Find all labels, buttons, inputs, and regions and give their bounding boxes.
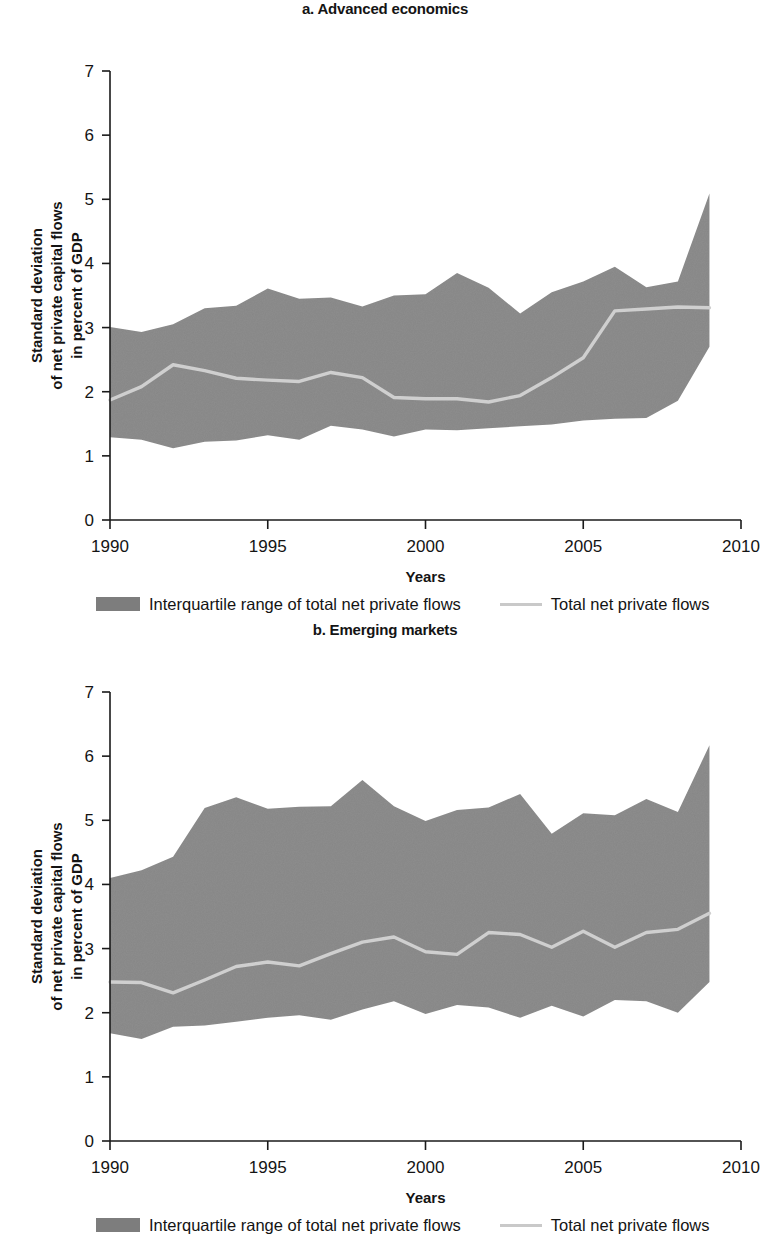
legend-band-label-b: Interquartile range of total net private… bbox=[149, 1216, 461, 1235]
y-tick-label: 1 bbox=[85, 1068, 94, 1087]
x-axis-title: Years bbox=[405, 1189, 445, 1206]
y-tick-label: 6 bbox=[85, 747, 94, 766]
x-tick-label: 1990 bbox=[91, 537, 129, 556]
legend-line-label-b: Total net private flows bbox=[551, 1216, 710, 1235]
legend-band-label-a: Interquartile range of total net private… bbox=[149, 595, 461, 614]
y-tick-label: 3 bbox=[85, 319, 94, 338]
y-axis-title-line-2: of net private capital flows bbox=[48, 201, 65, 389]
y-tick-label: 0 bbox=[85, 511, 94, 530]
x-tick-label: 1990 bbox=[91, 1158, 129, 1177]
chart-b-svg: 0123456719901995200020052010YearsStandar… bbox=[0, 638, 770, 1208]
y-tick-label: 3 bbox=[85, 940, 94, 959]
interquartile-band bbox=[110, 745, 709, 1039]
panel-a-plot: 0123456719901995200020052010YearsStandar… bbox=[0, 17, 770, 587]
panel-emerging-markets: b. Emerging markets 01234567199019952000… bbox=[0, 621, 770, 1238]
x-tick-label: 2010 bbox=[722, 1158, 760, 1177]
x-tick-label: 1995 bbox=[249, 1158, 287, 1177]
legend-band-swatch-a bbox=[96, 597, 140, 611]
y-axis-title-line-1: Standard deviation bbox=[28, 849, 45, 984]
legend-line-label-a: Total net private flows bbox=[551, 595, 710, 614]
y-tick-label: 5 bbox=[85, 811, 94, 830]
y-axis-title-line-3: in percent of GDP bbox=[68, 232, 85, 359]
legend-band-swatch-b bbox=[96, 1218, 140, 1232]
y-tick-label: 2 bbox=[85, 1004, 94, 1023]
y-tick-label: 0 bbox=[85, 1132, 94, 1151]
y-axis-title-line-3: in percent of GDP bbox=[68, 853, 85, 980]
panel-b-plot: 0123456719901995200020052010YearsStandar… bbox=[0, 638, 770, 1208]
panel-b-legend: Interquartile range of total net private… bbox=[0, 1208, 770, 1238]
panel-b-title: b. Emerging markets bbox=[0, 621, 770, 638]
y-tick-label: 7 bbox=[85, 683, 94, 702]
x-axis-title: Years bbox=[405, 568, 445, 585]
y-tick-label: 1 bbox=[85, 447, 94, 466]
legend-line-swatch-b bbox=[500, 1224, 542, 1227]
x-tick-label: 2005 bbox=[564, 537, 602, 556]
y-tick-label: 2 bbox=[85, 383, 94, 402]
panel-a-title: a. Advanced economics bbox=[0, 0, 770, 17]
legend-line-swatch-a bbox=[500, 603, 542, 606]
x-tick-label: 1995 bbox=[249, 537, 287, 556]
y-axis-title-line-2: of net private capital flows bbox=[48, 822, 65, 1010]
panel-advanced-economics: a. Advanced economics 012345671990199520… bbox=[0, 0, 770, 621]
x-tick-label: 2000 bbox=[407, 1158, 445, 1177]
x-tick-label: 2000 bbox=[407, 537, 445, 556]
chart-a-svg: 0123456719901995200020052010YearsStandar… bbox=[0, 17, 770, 587]
y-axis-title-line-1: Standard deviation bbox=[28, 228, 45, 363]
interquartile-band bbox=[110, 194, 709, 449]
y-tick-label: 4 bbox=[85, 875, 94, 894]
x-tick-label: 2005 bbox=[564, 1158, 602, 1177]
x-tick-label: 2010 bbox=[722, 537, 760, 556]
panel-a-legend: Interquartile range of total net private… bbox=[0, 587, 770, 621]
y-tick-label: 4 bbox=[85, 254, 94, 273]
y-tick-label: 7 bbox=[85, 62, 94, 81]
y-tick-label: 5 bbox=[85, 190, 94, 209]
y-tick-label: 6 bbox=[85, 126, 94, 145]
